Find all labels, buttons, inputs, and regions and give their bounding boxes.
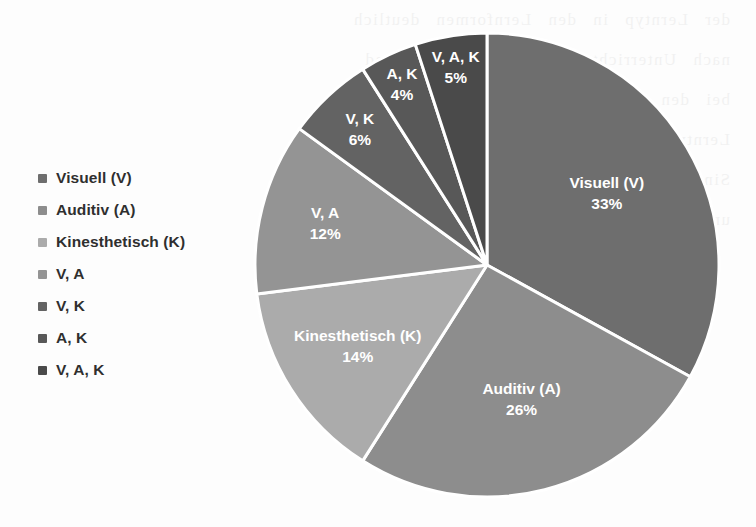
pie-slice-value: 5%	[445, 69, 468, 86]
legend-item-label: V, A	[56, 265, 85, 283]
legend-item[interactable]: Visuell (V)	[38, 162, 238, 194]
pie-slice-label: Auditiv (A)	[482, 380, 560, 397]
legend-item[interactable]: Kinesthetisch (K)	[38, 226, 238, 258]
pie-slice-group	[255, 33, 719, 497]
legend-swatch-icon	[38, 270, 47, 279]
pie-slice-value: 26%	[506, 401, 537, 418]
legend-swatch-icon	[38, 206, 47, 215]
pie-slice-value: 12%	[310, 225, 341, 242]
pie-slice-label: Visuell (V)	[569, 174, 644, 191]
pie-slice-value: 6%	[349, 131, 372, 148]
legend-item[interactable]: V, A	[38, 258, 238, 290]
pie-slice-label: V, A, K	[432, 48, 481, 65]
pie-slice-label: Kinesthetisch (K)	[294, 327, 421, 344]
legend-item[interactable]: A, K	[38, 322, 238, 354]
legend-swatch-icon	[38, 366, 47, 375]
legend-item-label: V, A, K	[56, 361, 105, 379]
legend-swatch-icon	[38, 174, 47, 183]
legend-swatch-icon	[38, 334, 47, 343]
legend-item-label: A, K	[56, 329, 87, 347]
pie-slice-label: A, K	[387, 65, 419, 82]
legend-item[interactable]: V, A, K	[38, 354, 238, 386]
legend-item-label: Visuell (V)	[56, 169, 132, 187]
legend-swatch-icon	[38, 238, 47, 247]
pie-slice-label: V, K	[346, 110, 376, 127]
legend-swatch-icon	[38, 302, 47, 311]
chart-legend: Visuell (V)Auditiv (A)Kinesthetisch (K)V…	[38, 162, 238, 386]
pie-slice-value: 33%	[591, 195, 622, 212]
pie-slice-label: V, A	[311, 204, 339, 221]
legend-item[interactable]: Auditiv (A)	[38, 194, 238, 226]
legend-item-label: Auditiv (A)	[56, 201, 135, 219]
legend-item-label: V, K	[56, 297, 85, 315]
pie-slice-value: 14%	[342, 348, 373, 365]
legend-item-label: Kinesthetisch (K)	[56, 233, 185, 251]
pie-slice-value: 4%	[391, 86, 414, 103]
pie-chart-figure: Visuell (V)33%Auditiv (A)26%Kinesthetisc…	[0, 0, 756, 527]
legend-item[interactable]: V, K	[38, 290, 238, 322]
